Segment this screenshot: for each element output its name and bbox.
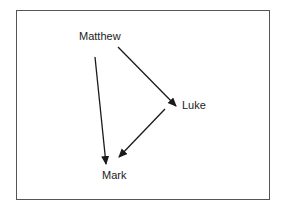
edge-matthew-mark bbox=[95, 57, 106, 164]
node-matthew: Matthew bbox=[79, 31, 121, 42]
node-luke: Luke bbox=[182, 100, 206, 111]
edges-layer bbox=[0, 0, 283, 212]
edge-matthew-luke bbox=[118, 47, 176, 106]
node-mark: Mark bbox=[102, 170, 126, 181]
edge-luke-mark bbox=[119, 109, 165, 157]
